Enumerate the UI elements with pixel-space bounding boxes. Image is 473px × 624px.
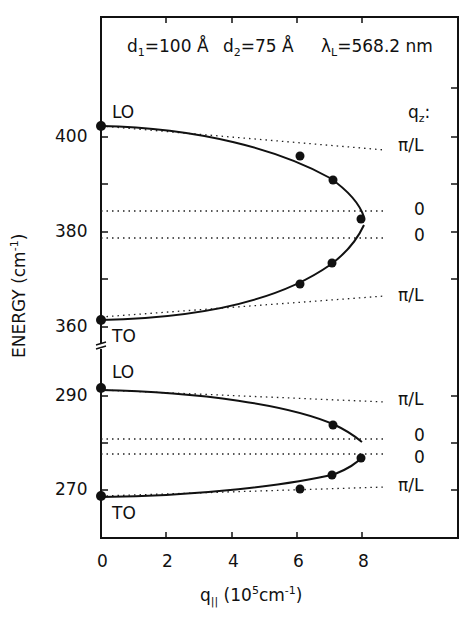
qz-zero-2: 0	[414, 227, 425, 244]
x-tick-4: 4	[228, 553, 239, 570]
x-tick-8: 8	[358, 553, 369, 570]
qz-pi-l-1: π/L	[398, 137, 423, 154]
plot-area	[0, 0, 473, 624]
x-tick-6: 6	[293, 553, 304, 570]
to-label-upper: TO	[112, 328, 136, 345]
qz-zero-1: 0	[414, 201, 425, 218]
y-tick-290: 290	[55, 387, 87, 404]
y-tick-400: 400	[55, 128, 87, 145]
d2-label: d2=75 Å	[223, 38, 294, 58]
axis-break-icon	[96, 342, 106, 349]
y-tick-360: 360	[55, 318, 87, 335]
qz-pi-l-2: π/L	[398, 287, 423, 304]
lo-label-upper: LO	[112, 104, 134, 121]
to-label-lower: TO	[112, 505, 136, 522]
qz-legend-title: qz:	[408, 104, 430, 124]
qz-pi-l-4: π/L	[398, 477, 423, 494]
qz-zero-3: 0	[414, 427, 425, 444]
qz-zero-4: 0	[414, 449, 425, 466]
axes-frame	[101, 17, 458, 538]
x-tick-2: 2	[162, 553, 173, 570]
lambda-label: λL=568.2 nm	[321, 38, 433, 58]
qz-pi-l-3: π/L	[398, 391, 423, 408]
x-tick-0: 0	[97, 553, 108, 570]
y-axis-title: ENERGY (cm-1)	[8, 234, 29, 358]
y-tick-270: 270	[55, 481, 87, 498]
d1-label: d1=100 Å	[127, 38, 209, 58]
x-axis-title: q|| (105cm-1)	[200, 585, 302, 607]
data-points	[96, 121, 366, 501]
lo-label-lower: LO	[112, 364, 134, 381]
y-tick-380: 380	[55, 223, 87, 240]
